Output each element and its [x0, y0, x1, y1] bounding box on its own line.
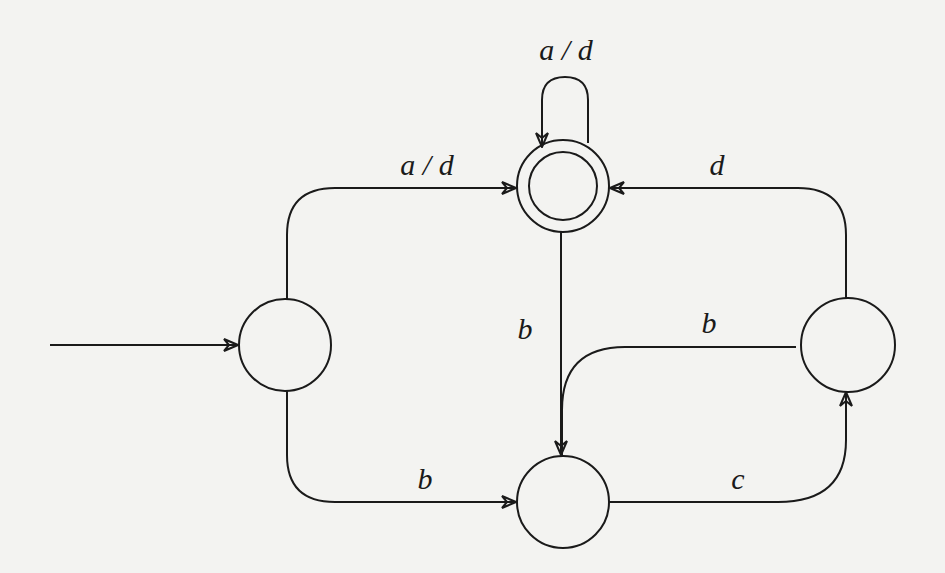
edge-q2-to-q3 — [609, 392, 846, 502]
state-inner-circle — [529, 152, 597, 220]
state-accepting — [517, 140, 609, 232]
state-right — [801, 298, 895, 392]
state-outer-circle — [517, 140, 609, 232]
state-circle — [239, 299, 331, 391]
state-circle — [517, 456, 609, 548]
label-q1-to-q2: b — [518, 312, 533, 345]
diagram-canvas: a / d a / d d b b b c — [0, 0, 945, 573]
label-self-loop: a / d — [539, 33, 593, 66]
label-q3-to-q1: d — [710, 148, 726, 181]
label-q3-to-q2: b — [702, 306, 717, 339]
automaton-diagram: a / d a / d d b b b c — [0, 0, 945, 573]
state-start — [239, 299, 331, 391]
label-q2-to-q3: c — [731, 462, 744, 495]
label-q0-to-q1: a / d — [400, 148, 454, 181]
label-q0-to-q2: b — [418, 462, 433, 495]
edge-q0-to-q2 — [287, 391, 516, 502]
edge-q3-to-q1 — [610, 188, 846, 298]
edge-q1-self-loop — [542, 77, 588, 147]
state-circle — [801, 298, 895, 392]
edge-q0-to-q1 — [287, 188, 516, 299]
state-bottom — [517, 456, 609, 548]
edge-q3-to-q2 — [562, 347, 796, 455]
